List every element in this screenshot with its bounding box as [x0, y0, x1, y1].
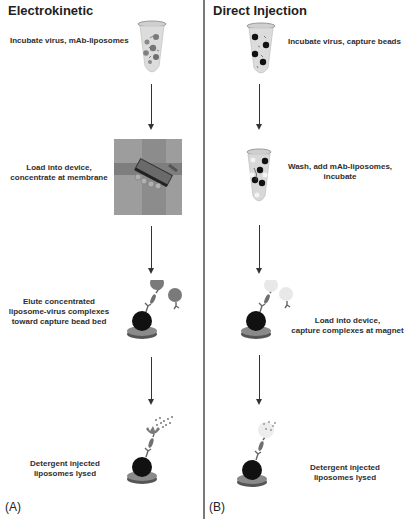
capture-bead-complex-icon	[126, 280, 186, 342]
arrowhead-a1	[148, 124, 154, 130]
flow-arrow-b1	[259, 84, 260, 124]
arrowhead-b2	[256, 268, 262, 274]
step-b2-text: Wash, add mAb-liposomes, incubate	[280, 162, 400, 182]
device-membrane-icon	[114, 139, 182, 215]
step-b4-text: Detergent injected liposomes lysed	[300, 463, 390, 483]
flow-arrow-b3	[259, 355, 260, 399]
flow-arrow-b2	[259, 225, 260, 268]
flow-arrow-a1	[151, 84, 152, 124]
step-a4-text: Detergent injected liposomes lysed	[20, 459, 110, 479]
panel-b-label: (B)	[209, 500, 225, 514]
tube-beads-icon	[246, 22, 276, 78]
lysed-liposome-icon	[126, 415, 178, 487]
step-a2-text: Load into device, concentrate at membran…	[4, 163, 114, 183]
panel-b-title: Direct Injection	[213, 3, 307, 18]
flow-arrow-a3	[151, 357, 152, 399]
panel-divider	[203, 0, 205, 519]
lysed-liposome-icon	[236, 420, 286, 490]
flow-arrow-a2	[151, 226, 152, 268]
step-b3-text: Load into device, capture complexes at m…	[285, 316, 410, 336]
tube-liposomes-icon	[137, 20, 167, 78]
step-b1-text: Incubate virus, capture beads	[288, 37, 401, 47]
step-a3-text: Elute concentrated liposome-virus comple…	[4, 297, 114, 327]
arrowhead-a2	[148, 268, 154, 274]
step-a1-text: Incubate virus, mAb-liposomes	[10, 36, 129, 46]
tube-wash-icon	[246, 148, 272, 206]
magnet-capture-icon	[240, 280, 296, 342]
arrowhead-a3	[148, 399, 154, 405]
panel-a-title: Electrokinetic	[8, 3, 93, 18]
panel-a-label: (A)	[5, 500, 21, 514]
arrowhead-b1	[256, 124, 262, 130]
arrowhead-b3	[256, 399, 262, 405]
